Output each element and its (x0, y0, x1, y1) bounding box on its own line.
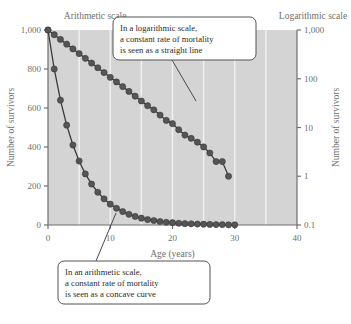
data-point (113, 79, 119, 85)
data-point (45, 27, 51, 33)
right-scale-title: Logarithmic scale (279, 11, 347, 21)
data-point (82, 55, 88, 61)
tick-label-x-40: 40 (293, 233, 303, 243)
tick-label-left-1000: 1,000 (21, 25, 42, 35)
data-point (64, 41, 70, 47)
data-point (194, 221, 200, 227)
data-point (95, 65, 101, 71)
data-point (138, 98, 144, 104)
log-callout-line-0: In a logarithmic scale, (120, 23, 197, 33)
data-point (113, 205, 119, 211)
data-point (64, 122, 70, 128)
data-point (163, 117, 169, 123)
tick-label-left-600: 600 (28, 103, 42, 113)
data-point (169, 220, 175, 226)
data-point (163, 219, 169, 225)
data-point (107, 201, 113, 207)
data-point (132, 93, 138, 99)
figure-container: 02004006008001,0000.11101001,00001020304… (0, 0, 351, 324)
data-point (176, 220, 182, 226)
data-point (101, 196, 107, 202)
data-point (95, 189, 101, 195)
data-point (76, 158, 82, 164)
data-point (138, 215, 144, 221)
data-point (207, 150, 213, 156)
tick-label-x-20: 20 (168, 233, 178, 243)
tick-label-left-200: 200 (28, 181, 42, 191)
data-point (126, 211, 132, 217)
tick-label-right-100: 100 (304, 74, 318, 84)
tick-label-left-400: 400 (28, 142, 42, 152)
data-point (145, 103, 151, 109)
data-point (207, 221, 213, 227)
tick-label-right-1: 1 (304, 171, 309, 181)
data-point (145, 216, 151, 222)
tick-label-right-10: 10 (304, 123, 314, 133)
data-point (182, 221, 188, 227)
data-point (57, 36, 63, 42)
data-point (70, 46, 76, 52)
arith-callout-line-1: a constant rate of mortality (65, 278, 159, 288)
tick-label-x-0: 0 (46, 233, 51, 243)
y-axis-label-right: Number of survivors (331, 88, 341, 167)
tick-label-right-1000: 1,000 (304, 25, 325, 35)
data-point (232, 222, 238, 228)
tick-label-left-0: 0 (37, 220, 42, 230)
data-point (76, 51, 82, 57)
arith-callout-line-0: In an arithmetic scale, (65, 267, 142, 277)
data-point (169, 121, 175, 127)
data-point (157, 112, 163, 118)
tick-label-x-30: 30 (230, 233, 240, 243)
data-point (120, 208, 126, 214)
tick-label-left-800: 800 (28, 64, 42, 74)
data-point (201, 144, 207, 150)
data-point (88, 181, 94, 187)
data-point (51, 32, 57, 38)
data-point (213, 158, 219, 164)
x-axis-label: Age (years) (150, 249, 195, 260)
data-point (201, 221, 207, 227)
data-point (51, 66, 57, 72)
data-point (182, 132, 188, 138)
data-point (126, 88, 132, 94)
data-point (219, 222, 225, 228)
data-point (225, 173, 231, 179)
data-point (188, 221, 194, 227)
y-axis-label-left: Number of survivors (6, 88, 16, 167)
survivorship-curve-chart: 02004006008001,0000.11101001,00001020304… (0, 0, 351, 324)
data-point (70, 142, 76, 148)
data-point (88, 60, 94, 66)
data-point (176, 127, 182, 133)
arith-callout-line-2: is seen as a concave curve (65, 289, 156, 299)
data-point (120, 84, 126, 90)
data-point (132, 213, 138, 219)
data-point (188, 135, 194, 141)
data-point (157, 218, 163, 224)
data-point (194, 139, 200, 145)
data-point (219, 158, 225, 164)
data-point (225, 222, 231, 228)
data-point (82, 171, 88, 177)
data-point (101, 69, 107, 75)
tick-label-right-0.1: 0.1 (304, 220, 315, 230)
data-point (107, 74, 113, 80)
data-point (151, 217, 157, 223)
log-callout-line-1: a constant rate of mortality (120, 34, 214, 44)
data-point (151, 107, 157, 113)
log-callout-line-2: is seen as a straight line (120, 45, 202, 55)
data-point (213, 222, 219, 228)
data-point (57, 97, 63, 103)
